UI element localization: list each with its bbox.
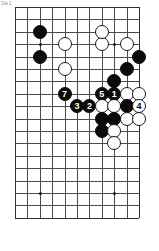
stone-white[interactable] [120, 37, 134, 51]
go-board[interactable]: 751324 [0, 0, 159, 251]
stone-white[interactable] [95, 25, 109, 39]
star-point [39, 43, 42, 46]
grid-line-horizontal [15, 193, 139, 194]
stone-move-number: 2 [83, 100, 95, 112]
grid-line-horizontal [15, 181, 139, 182]
grid-line-horizontal [15, 168, 139, 169]
stone-black[interactable] [120, 62, 134, 76]
grid-line-horizontal [15, 7, 139, 8]
grid-line-horizontal [15, 156, 139, 157]
grid-line-horizontal [15, 205, 139, 206]
star-point [113, 192, 116, 195]
stone-move-7[interactable]: 7 [58, 87, 72, 101]
stone-move-number: 3 [71, 100, 83, 112]
stone-white[interactable] [95, 37, 109, 51]
stone-move-number: 1 [108, 88, 120, 100]
grid-line-vertical [15, 7, 16, 218]
star-point [113, 43, 116, 46]
grid-line-horizontal [15, 218, 139, 219]
grid-line-horizontal [15, 19, 139, 20]
stone-white[interactable] [58, 62, 72, 76]
stone-move-number: 4 [133, 100, 145, 112]
star-point [39, 192, 42, 195]
stone-black[interactable] [33, 25, 47, 39]
stone-move-number: 7 [59, 88, 71, 100]
stone-move-number: 5 [96, 88, 108, 100]
grid-line-vertical [52, 7, 53, 218]
grid-line-vertical [27, 7, 28, 218]
stone-black[interactable] [132, 50, 146, 64]
stone-white[interactable] [58, 37, 72, 51]
stone-white[interactable] [132, 112, 146, 126]
stone-black[interactable] [33, 50, 47, 64]
go-diagram: Dia 1 751324 [0, 0, 159, 251]
stone-white[interactable] [107, 136, 121, 150]
